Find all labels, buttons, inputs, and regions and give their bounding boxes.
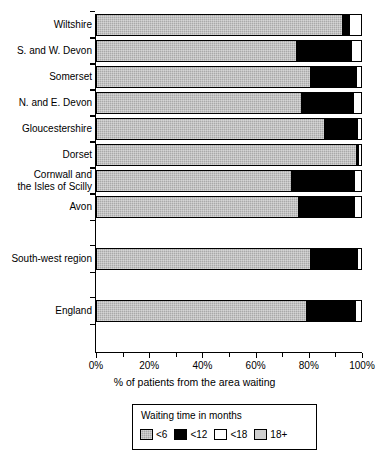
y-axis-tick (90, 245, 95, 246)
bar-n-and-e-devon (96, 92, 362, 114)
bar-england (96, 300, 362, 322)
bar-segment-lt12 (342, 15, 349, 35)
bar-segment-lt12 (301, 93, 354, 113)
y-axis-tick (90, 220, 95, 221)
bar-segment-lt18 (354, 197, 361, 217)
plot-area (96, 14, 362, 351)
legend-label: <6 (156, 429, 167, 440)
y-axis-tick (90, 193, 95, 194)
legend-swatch-icon (140, 429, 153, 440)
bar-segment-lt18 (354, 171, 361, 191)
category-label: Somerset (0, 71, 92, 83)
bar-gloucestershire (96, 118, 362, 140)
x-axis-tick (96, 353, 97, 358)
y-axis-tick (90, 167, 95, 168)
x-axis-minor-tick (176, 353, 177, 357)
category-label: England (0, 305, 92, 317)
category-label: Dorset (0, 149, 92, 161)
x-axis-minor-tick (335, 353, 336, 357)
bar-segment-lt18 (355, 301, 361, 321)
x-axis-minor-tick (229, 353, 230, 357)
bar-segment-lt6 (97, 197, 298, 217)
bar-segment-lt6 (97, 301, 306, 321)
x-axis-tick-label: 100% (340, 360, 384, 371)
legend-swatch-icon (214, 429, 227, 440)
category-label: Gloucestershire (0, 123, 92, 135)
bar-s-and-w-devon (96, 40, 362, 62)
y-axis-tick (90, 37, 95, 38)
x-axis-title: % of patients from the area waiting (0, 376, 389, 388)
category-label: Cornwall and the Isles of Scilly (0, 169, 92, 192)
y-axis-tick (90, 324, 95, 325)
category-label: Wiltshire (0, 19, 92, 31)
y-axis-tick (90, 11, 95, 12)
y-axis-tick (90, 89, 95, 90)
x-axis-tick-label: 80% (287, 360, 331, 371)
legend-label: <12 (190, 429, 207, 440)
bar-segment-lt18 (351, 41, 361, 61)
x-axis-tick (309, 353, 310, 358)
x-axis-tick (149, 353, 150, 358)
y-axis-tick (90, 38, 95, 39)
bar-segment-lt6 (97, 119, 324, 139)
legend-title: Waiting time in months (141, 410, 242, 421)
y-axis-tick (90, 116, 95, 117)
bar-segment-lt6 (97, 93, 301, 113)
bar-segment-lt12 (310, 67, 356, 87)
category-axis-labels: WiltshireS. and W. DevonSomersetN. and E… (0, 0, 92, 463)
bar-somerset (96, 66, 362, 88)
bar-segment-lt18 (353, 93, 361, 113)
bar-segment-lt12 (296, 41, 351, 61)
bar-segment-lt6 (97, 41, 296, 61)
category-label: South-west region (0, 253, 92, 265)
legend-item: <18 (214, 429, 247, 440)
legend: Waiting time in months <6<12<1818+ (132, 404, 317, 450)
bar-segment-lt18 (356, 67, 361, 87)
x-axis-tick (202, 353, 203, 358)
x-axis-tick-label: 40% (180, 360, 224, 371)
horizontal-stacked-bar-chart: WiltshireS. and W. DevonSomersetN. and E… (0, 0, 389, 463)
x-axis-tick (362, 353, 363, 358)
legend-item: <12 (174, 429, 207, 440)
legend-label: 18+ (270, 429, 287, 440)
bar-cornwall-and-the-isles-of-scilly (96, 170, 362, 192)
bar-wiltshire (96, 14, 362, 36)
category-label: N. and E. Devon (0, 97, 92, 109)
legend-swatch-icon (254, 429, 267, 440)
x-axis-tick-label: 20% (127, 360, 171, 371)
y-axis-tick (90, 168, 95, 169)
legend-items: <6<12<1818+ (140, 429, 312, 440)
x-axis-tick-label: 0% (74, 360, 118, 371)
bar-segment-lt12 (324, 119, 357, 139)
legend-swatch-icon (174, 429, 187, 440)
y-axis-tick (90, 297, 95, 298)
x-axis-tick-label: 60% (234, 360, 278, 371)
bar-segment-lt12 (298, 197, 353, 217)
bar-segment-lt6 (97, 249, 310, 269)
bar-avon (96, 196, 362, 218)
y-axis-tick (90, 142, 95, 143)
bar-dorset (96, 144, 362, 166)
legend-label: <18 (230, 429, 247, 440)
bar-south-west-region (96, 248, 362, 270)
bar-segment-lt12 (306, 301, 356, 321)
bar-segment-lt12 (291, 171, 354, 191)
y-axis-tick (90, 63, 95, 64)
x-axis-minor-tick (282, 353, 283, 357)
bar-segment-lt6 (97, 67, 310, 87)
bar-segment-lt18 (358, 145, 361, 165)
bar-segment-lt6 (97, 15, 342, 35)
y-axis-tick (90, 90, 95, 91)
y-axis-tick (90, 115, 95, 116)
category-label: Avon (0, 201, 92, 213)
legend-item: <6 (140, 429, 167, 440)
y-axis-tick (90, 141, 95, 142)
bar-segment-lt18 (357, 119, 361, 139)
legend-item: 18+ (254, 429, 287, 440)
y-axis-tick (90, 272, 95, 273)
bar-segment-lt18 (357, 249, 361, 269)
bar-segment-lt6 (97, 171, 291, 191)
y-axis-tick (90, 64, 95, 65)
y-axis-tick (90, 194, 95, 195)
bar-segment-lt12 (310, 249, 357, 269)
